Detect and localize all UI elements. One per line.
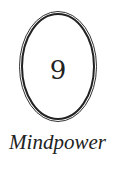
- chapter-number-frame: 9: [18, 10, 98, 123]
- chapter-title: Mindpower: [0, 130, 115, 155]
- chapter-number: 9: [18, 10, 98, 123]
